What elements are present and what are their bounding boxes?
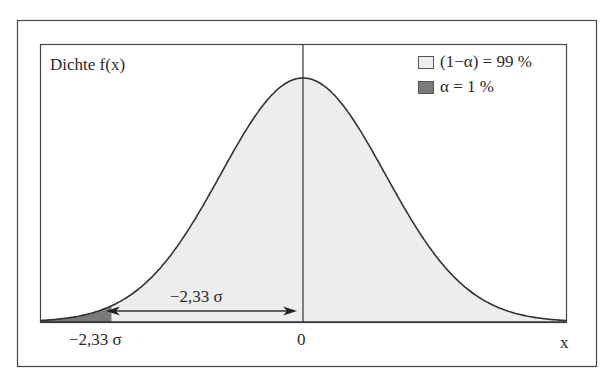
arrow-label: −2,33 σ xyxy=(170,288,223,305)
legend-label-1: α = 1 % xyxy=(440,77,494,97)
tick-label-zero: 0 xyxy=(297,331,306,348)
y-axis-label: Dichte f(x) xyxy=(50,56,125,73)
legend-swatch-light xyxy=(418,56,434,69)
x-axis-label: x xyxy=(560,334,569,351)
legend-item-1: α = 1 % xyxy=(418,77,494,97)
tick-label-left: −2,33 σ xyxy=(69,331,122,348)
legend-label-99: (1−α) = 99 % xyxy=(440,52,532,72)
legend-item-99: (1−α) = 99 % xyxy=(418,52,532,72)
legend-swatch-dark xyxy=(418,81,434,94)
